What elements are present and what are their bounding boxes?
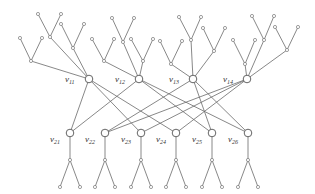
- tree-edge: [73, 48, 89, 79]
- cross-edge-v14-v22: [105, 79, 247, 133]
- tree-edge: [193, 51, 214, 79]
- leaf-node: [18, 36, 21, 39]
- leaf-node: [296, 25, 299, 28]
- leaf-node: [200, 185, 203, 188]
- hub-node-v14: [243, 75, 251, 83]
- tree-edge: [143, 39, 153, 61]
- leaf-node: [250, 14, 253, 17]
- inner-node: [71, 46, 74, 49]
- tree-edge: [191, 17, 201, 40]
- inner-node: [246, 158, 249, 161]
- tree-edge: [104, 61, 139, 79]
- cross-edge-v14-v24: [176, 79, 247, 133]
- hub-node-v25: [208, 129, 216, 137]
- inner-node: [285, 48, 288, 51]
- leaf-node: [180, 39, 183, 42]
- inner-node: [48, 35, 51, 38]
- leaf-node: [58, 185, 61, 188]
- hub-node-v12: [135, 75, 143, 83]
- tree-edge: [179, 17, 191, 40]
- inner-node: [68, 158, 71, 161]
- node-label-v22: v22: [85, 134, 95, 145]
- hub-node-v22: [101, 129, 109, 137]
- leaf-node: [36, 12, 39, 15]
- inner-node: [121, 40, 124, 43]
- leaf-node: [113, 185, 116, 188]
- cross-edge-v12-v21: [70, 79, 139, 133]
- tree-edge: [264, 16, 274, 40]
- tree-edge: [238, 160, 248, 187]
- tree-edge: [31, 38, 42, 61]
- leaf-node: [231, 38, 234, 41]
- tree-edge: [92, 39, 104, 61]
- tree-edge: [202, 160, 212, 187]
- hub-node-v26: [244, 129, 252, 137]
- leaf-node: [201, 26, 204, 29]
- tree-edge: [131, 160, 141, 187]
- tree-edge: [252, 16, 264, 40]
- hub-node-v21: [66, 129, 74, 137]
- hub-node-v11: [85, 75, 93, 83]
- leaf-node: [220, 185, 223, 188]
- inner-node: [189, 38, 192, 41]
- tree-edge: [105, 160, 115, 187]
- leaf-node: [158, 39, 161, 42]
- leaf-node: [177, 15, 180, 18]
- leaf-node: [273, 25, 276, 28]
- node-label-v26: v26: [228, 134, 238, 145]
- tree-edge: [104, 39, 114, 61]
- inner-node: [174, 158, 177, 161]
- inner-node: [243, 62, 246, 65]
- cross-edge-v13-v22: [105, 79, 193, 133]
- node-label-v11: v11: [65, 74, 75, 85]
- leaf-node: [129, 185, 132, 188]
- tree-edge: [203, 28, 214, 51]
- node-label-v25: v25: [192, 134, 202, 145]
- leaf-node: [93, 185, 96, 188]
- leaf-node: [272, 14, 275, 17]
- node-label-v21: v21: [50, 134, 60, 145]
- inner-node: [102, 59, 105, 62]
- inner-node: [141, 59, 144, 62]
- leaf-node: [151, 37, 154, 40]
- node-label-v12: v12: [115, 74, 125, 85]
- tree-edge: [176, 160, 186, 187]
- leaf-node: [199, 15, 202, 18]
- tree-edge: [95, 160, 105, 187]
- tree-edge: [275, 27, 287, 50]
- tree-edge: [38, 14, 50, 37]
- node-label-v13: v13: [169, 74, 179, 85]
- tree-edge: [61, 24, 73, 48]
- inner-node: [169, 62, 172, 65]
- cross-edge-v11-v24: [89, 79, 176, 133]
- leaf-node: [132, 16, 135, 19]
- inner-node: [139, 158, 142, 161]
- tree-edge: [245, 40, 255, 64]
- leaf-node: [40, 36, 43, 39]
- tree-edge: [248, 160, 258, 187]
- tree-edge: [166, 160, 176, 187]
- tree-edge: [73, 24, 84, 48]
- inner-node: [212, 49, 215, 52]
- leaf-node: [256, 185, 259, 188]
- leaf-node: [253, 38, 256, 41]
- leaf-node: [59, 12, 62, 15]
- inner-node: [103, 158, 106, 161]
- tree-edge: [287, 27, 298, 50]
- tree-edge: [123, 42, 139, 79]
- leaf-node: [149, 185, 152, 188]
- leaf-node: [164, 185, 167, 188]
- tree-edge: [212, 160, 222, 187]
- inner-node: [262, 38, 265, 41]
- node-label-v24: v24: [156, 134, 166, 145]
- tree-edge: [70, 160, 80, 187]
- cross-edge-v11-v21: [70, 79, 89, 133]
- tree-edge: [50, 14, 61, 37]
- hub-node-v24: [172, 129, 180, 137]
- tree-edge: [60, 160, 70, 187]
- tree-edge: [131, 39, 143, 61]
- node-label-v14: v14: [223, 74, 233, 85]
- tree-edge: [160, 41, 171, 64]
- node-label-v23: v23: [121, 134, 131, 145]
- leaf-node: [112, 37, 115, 40]
